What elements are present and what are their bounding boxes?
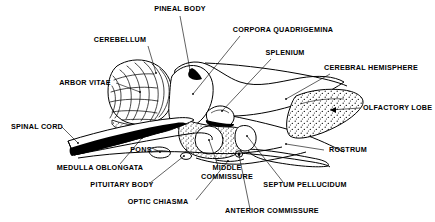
label-splenium: SPLENIUM: [265, 48, 304, 57]
label-optic-chiasma: OPTIC CHIASMA: [128, 197, 189, 206]
leader-pineal-body: [180, 16, 190, 70]
label-olfactory-lobe: OLFACTORY LOBE: [363, 103, 432, 112]
olfactory-lobe-body: [287, 89, 363, 138]
label-commissure: COMMISSURE: [201, 172, 253, 181]
brain-sagittal-diagram: PINEAL BODY CORPORA QUADRIGEMINA CEREBEL…: [0, 0, 435, 222]
label-cerebral-hemisphere: CEREBRAL HEMISPHERE: [324, 63, 418, 72]
label-anterior-commissure: ANTERIOR COMMISSURE: [225, 206, 319, 215]
label-corpora-quadrigemina: CORPORA QUADRIGEMINA: [233, 25, 334, 34]
label-cerebellum: CEREBELLUM: [94, 35, 146, 44]
septum-pellucidum-body: [235, 125, 256, 151]
label-septum-pellucidum: SEPTUM PELLUCIDUM: [263, 180, 346, 189]
label-pineal-body: PINEAL BODY: [154, 4, 206, 13]
label-pituitary-body: PITUITARY BODY: [90, 180, 153, 189]
label-rostrum: ROSTRUM: [329, 145, 367, 154]
label-spinal-cord: SPINAL CORD: [11, 122, 63, 131]
brain-outline-group: [68, 60, 363, 167]
label-arbor-vitae: ARBOR VITAE: [59, 78, 111, 87]
pituitary-body-mass: [181, 153, 192, 160]
label-middle: MIDDLE: [212, 163, 241, 172]
diagram-canvas: PINEAL BODY CORPORA QUADRIGEMINA CEREBEL…: [0, 0, 435, 222]
label-medulla-oblongata: MEDULLA OBLONGATA: [57, 163, 143, 172]
leader-rostrum: [286, 144, 324, 150]
leader-pituitary-body: [150, 156, 184, 183]
label-pons: PONS: [130, 145, 151, 154]
